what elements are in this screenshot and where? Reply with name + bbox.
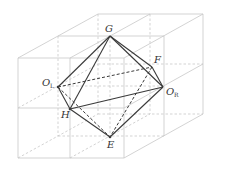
octahedron-hidden-edges (58, 67, 152, 137)
diagram-canvas: G F O R O L H E (0, 0, 226, 174)
label-ol-sub: L (50, 82, 54, 89)
label-or-sub: R (174, 91, 179, 98)
octahedron-edges (58, 36, 163, 137)
label-g: G (105, 23, 113, 34)
label-f: F (153, 54, 162, 65)
label-e: E (106, 139, 115, 150)
octahedron-diagram: G F O R O L H E (0, 0, 226, 174)
label-h: H (60, 109, 70, 120)
label-ol: O (42, 77, 50, 88)
label-or: O (166, 86, 174, 97)
vertex-labels: G F O R O L H E (42, 23, 179, 150)
